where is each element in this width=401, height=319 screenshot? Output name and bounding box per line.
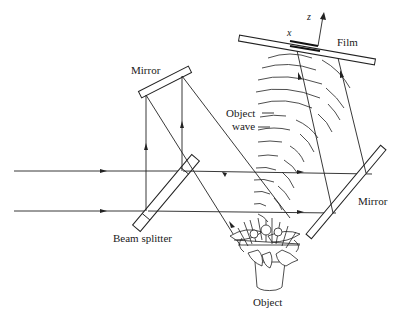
arrow-icon: [222, 172, 227, 177]
arrow-icon: [180, 121, 184, 128]
axis-z-label: z: [306, 11, 311, 22]
arrow-icon: [100, 169, 107, 173]
mirror-right-label: Mirror: [358, 195, 388, 207]
film-label: Film: [337, 36, 358, 48]
mirror-top-label: Mirror: [131, 64, 161, 76]
arrow-icon: [229, 221, 235, 228]
arrow-icon: [144, 143, 148, 150]
arrow-icon: [320, 12, 326, 20]
object-label: Object: [253, 296, 282, 308]
object-wave-fronts: [254, 54, 350, 222]
coordinate-axes: z x: [286, 11, 326, 46]
object-flower-vase: [230, 218, 300, 291]
mirror-right: [306, 145, 386, 238]
axis-x-label: x: [286, 27, 292, 38]
diagram-svg: z x Mirror Beam splitter Object wave Fil…: [0, 0, 401, 319]
object-wave-label-line2: wave: [232, 120, 255, 132]
object-wave-label-line1: Object: [226, 107, 255, 119]
beam-splitter: [133, 155, 200, 232]
beam-splitter-label: Beam splitter: [113, 232, 172, 244]
arrow-icon: [297, 210, 304, 214]
arrow-icon: [100, 209, 107, 213]
holography-diagram: z x Mirror Beam splitter Object wave Fil…: [0, 0, 401, 319]
